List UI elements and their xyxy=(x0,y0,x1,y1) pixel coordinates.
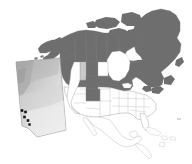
sampling-point xyxy=(21,109,24,112)
state-colorado xyxy=(86,89,100,101)
state-idaho xyxy=(80,62,86,80)
alberta-inset xyxy=(16,58,66,137)
sampling-point xyxy=(24,111,27,114)
map-figure: North America map with Alberta inset xyxy=(0,0,192,164)
sampling-point xyxy=(27,119,30,122)
state-wyoming xyxy=(86,76,98,89)
sampling-point xyxy=(23,116,26,119)
map-svg xyxy=(0,0,192,164)
sampling-point xyxy=(28,123,30,125)
state-north-dakota xyxy=(98,62,108,76)
state-montana xyxy=(86,62,98,76)
